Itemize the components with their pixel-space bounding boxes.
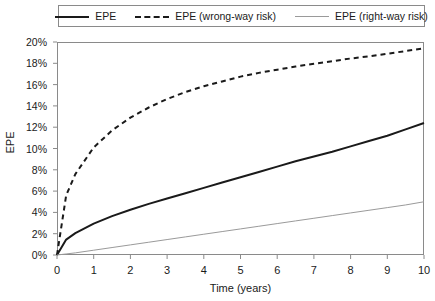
data-series-layer	[57, 48, 424, 255]
x-tick-label: 7	[299, 265, 329, 276]
y-tick-label: 6%	[5, 186, 47, 197]
x-tick-label: 5	[226, 265, 256, 276]
series-line-0	[57, 123, 424, 255]
x-tick-label: 3	[152, 265, 182, 276]
y-tick-label: 16%	[5, 80, 47, 91]
y-tick-label: 14%	[5, 101, 47, 112]
x-tick-label: 0	[42, 265, 72, 276]
x-tick-label: 2	[115, 265, 145, 276]
x-tick-label: 6	[262, 265, 292, 276]
series-line-2	[57, 202, 424, 255]
y-axis-title: EPE	[5, 115, 16, 171]
x-tick-label: 10	[409, 265, 435, 276]
chart-canvas	[0, 0, 435, 301]
y-tick-label: 0%	[5, 250, 47, 261]
y-axis-ticks	[53, 42, 57, 255]
series-line-1	[57, 48, 424, 255]
x-tick-label: 4	[189, 265, 219, 276]
x-axis-title: Time (years)	[57, 283, 424, 294]
y-tick-label: 4%	[5, 207, 47, 218]
x-tick-label: 8	[336, 265, 366, 276]
y-tick-label: 18%	[5, 58, 47, 69]
y-tick-label: 20%	[5, 37, 47, 48]
epe-chart: EPE EPE (wrong-way risk) EPE (right-way …	[0, 0, 435, 301]
x-axis-ticks	[57, 255, 424, 259]
x-tick-label: 9	[372, 265, 402, 276]
y-tick-label: 2%	[5, 229, 47, 240]
x-tick-label: 1	[79, 265, 109, 276]
